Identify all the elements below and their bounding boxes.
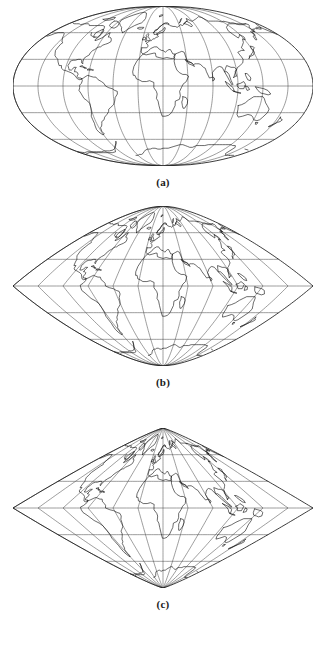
map-b-coastlines bbox=[74, 212, 265, 355]
map-a bbox=[13, 6, 313, 166]
coastline-path-b bbox=[74, 212, 265, 355]
map-c-svg bbox=[13, 428, 313, 588]
panel-b-caption: (b) bbox=[156, 377, 170, 388]
panel-a: (a) bbox=[0, 6, 326, 206]
map-a-coastlines bbox=[47, 12, 282, 155]
map-b bbox=[13, 206, 313, 366]
map-a-graticule bbox=[13, 6, 313, 166]
panel-c: (c) bbox=[0, 428, 326, 656]
map-c bbox=[13, 428, 313, 588]
graticule-path-a bbox=[13, 6, 313, 166]
panel-c-caption: (c) bbox=[157, 599, 170, 610]
figure-three-map-projections: (a) (b) (c) bbox=[0, 0, 326, 657]
panel-a-caption: (a) bbox=[156, 177, 169, 188]
map-b-svg bbox=[13, 206, 313, 366]
coastline-path-a bbox=[47, 12, 282, 155]
map-a-svg bbox=[13, 6, 313, 166]
panel-b: (b) bbox=[0, 206, 326, 428]
